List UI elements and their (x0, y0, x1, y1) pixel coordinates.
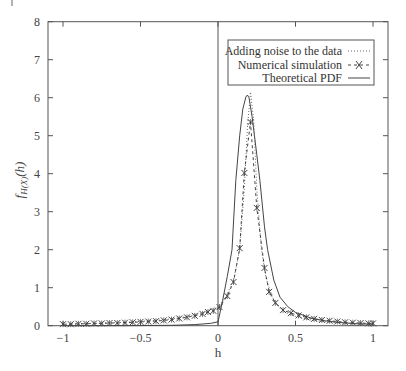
x-marker-icon (205, 309, 211, 315)
x-marker-icon (288, 310, 294, 316)
y-tick-label: 6 (34, 91, 40, 105)
y-axis-label: fH(X)(h) (12, 162, 29, 199)
x-marker-icon (262, 265, 268, 271)
y-tick-label: 0 (34, 319, 40, 333)
x-tick-label: −1 (57, 331, 70, 345)
x-marker-icon (231, 279, 237, 285)
pdf-chart: −1−0.500.51012345678 h fH(X)(h) Adding n… (0, 0, 406, 371)
legend-label-noise: Adding noise to the data (225, 44, 343, 58)
x-tick-label: 0 (215, 331, 221, 345)
x-tick-label: −0.5 (130, 331, 152, 345)
x-marker-icon (224, 293, 230, 299)
x-marker-icon (280, 307, 286, 313)
x-marker-icon (266, 289, 272, 295)
legend-label-theoretical: Theoretical PDF (262, 71, 342, 85)
x-marker-icon (122, 320, 128, 326)
y-tick-label: 4 (34, 167, 40, 181)
y-tick-label: 3 (34, 205, 40, 219)
y-tick-label: 7 (34, 53, 40, 67)
x-marker-icon (241, 170, 247, 176)
y-tick-label: 8 (34, 15, 40, 29)
x-tick-label: 0.5 (288, 331, 303, 345)
x-marker-icon (272, 300, 278, 306)
y-tick-label: 1 (34, 281, 40, 295)
x-marker-icon (254, 205, 260, 211)
y-tick-label: 2 (34, 243, 40, 257)
x-marker-icon (192, 313, 198, 319)
x-axis-label: h (215, 345, 222, 360)
legend-label-simulation: Numerical simulation (238, 58, 342, 72)
legend: Adding noise to the data Numerical simul… (225, 40, 374, 85)
x-marker-icon (145, 319, 151, 325)
x-marker-icon (210, 308, 216, 314)
y-tick-label: 5 (34, 129, 40, 143)
x-marker-icon (296, 312, 302, 318)
x-tick-label: 1 (370, 331, 376, 345)
x-marker-icon (237, 245, 243, 251)
